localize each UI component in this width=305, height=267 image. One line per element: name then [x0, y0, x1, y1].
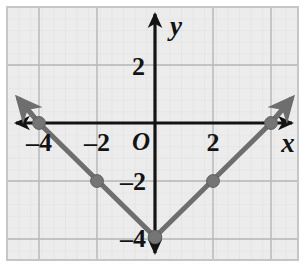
graph-figure: –4 –2 2 2 –2 –4 O y x [0, 0, 305, 267]
x-axis-label: x [280, 128, 295, 158]
y-tick-label-pos2: 2 [132, 52, 145, 81]
x-tick-label-pos2: 2 [207, 128, 220, 157]
y-tick-label-neg4: –4 [119, 224, 146, 253]
x-tick-label-neg4: –4 [25, 128, 52, 157]
y-tick-label-neg2: –2 [119, 167, 146, 196]
x-tick-label-neg2: –2 [83, 128, 110, 157]
origin-label: O [132, 128, 150, 155]
data-point [265, 117, 278, 130]
coordinate-plane-graphic: –4 –2 2 2 –2 –4 O y x [0, 0, 305, 267]
data-point [148, 230, 162, 244]
y-axis-label: y [167, 11, 183, 41]
data-point [91, 175, 104, 188]
data-point [207, 175, 220, 188]
